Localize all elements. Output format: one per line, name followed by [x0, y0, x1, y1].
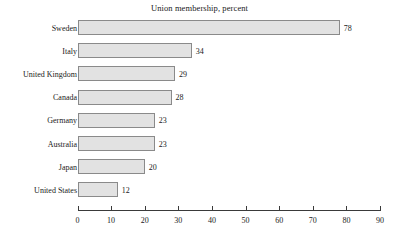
bar-row: Australia23: [0, 136, 399, 151]
bar-value-label: 20: [149, 162, 157, 171]
x-axis-tick-label: 60: [275, 216, 283, 225]
x-axis-tick: [78, 206, 79, 210]
bar-row: United States12: [0, 182, 399, 197]
category-label: United Kingdom: [0, 69, 77, 78]
x-axis-tick: [346, 206, 347, 210]
bar: [78, 159, 145, 174]
bar-row: United Kingdom29: [0, 66, 399, 81]
x-axis-tick-label: 30: [174, 216, 182, 225]
bar-row: Sweden78: [0, 20, 399, 35]
bar-value-label: 34: [196, 46, 204, 55]
bar: [78, 20, 340, 35]
bar-row: Italy34: [0, 43, 399, 58]
category-label: Sweden: [0, 23, 77, 32]
x-axis-tick: [212, 206, 213, 210]
category-label: Canada: [0, 93, 77, 102]
x-axis-tick-label: 10: [107, 216, 115, 225]
x-axis-tick-label: 40: [208, 216, 216, 225]
bar-value-label: 78: [344, 23, 352, 32]
category-label: Germany: [0, 116, 77, 125]
bar: [78, 66, 175, 81]
bar-value-label: 23: [159, 116, 167, 125]
category-label: Japan: [0, 162, 77, 171]
bar-value-label: 23: [159, 139, 167, 148]
x-axis-tick-label: 50: [242, 216, 250, 225]
bar-value-label: 29: [179, 69, 187, 78]
bar-chart: Union membership, percent Sweden78Italy3…: [0, 0, 399, 236]
x-axis-tick-label: 20: [141, 216, 149, 225]
x-axis-tick-label: 0: [76, 216, 80, 225]
bar: [78, 182, 118, 197]
bar: [78, 90, 172, 105]
bar-row: Canada28: [0, 90, 399, 105]
bar-row: Japan20: [0, 159, 399, 174]
bar-row: Germany23: [0, 113, 399, 128]
bar: [78, 43, 192, 58]
x-axis-tick: [178, 206, 179, 210]
chart-title: Union membership, percent: [0, 3, 399, 13]
x-axis-tick-label: 80: [342, 216, 350, 225]
axis-line: [78, 210, 382, 211]
bar: [78, 113, 155, 128]
category-label: Australia: [0, 139, 77, 148]
x-axis-tick: [313, 206, 314, 210]
plot-area: Sweden78Italy34United Kingdom29Canada28G…: [0, 18, 399, 208]
x-axis-tick-label: 90: [376, 216, 384, 225]
bar: [78, 136, 155, 151]
x-axis-tick: [145, 206, 146, 210]
category-label: Italy: [0, 46, 77, 55]
category-label: United States: [0, 185, 77, 194]
x-axis-tick: [380, 206, 381, 210]
x-axis-tick: [279, 206, 280, 210]
x-axis-tick: [246, 206, 247, 210]
x-axis: 0102030405060708090: [0, 210, 399, 236]
bar-value-label: 28: [176, 93, 184, 102]
x-axis-tick-label: 70: [309, 216, 317, 225]
x-axis-tick: [111, 206, 112, 210]
bar-value-label: 12: [122, 185, 130, 194]
